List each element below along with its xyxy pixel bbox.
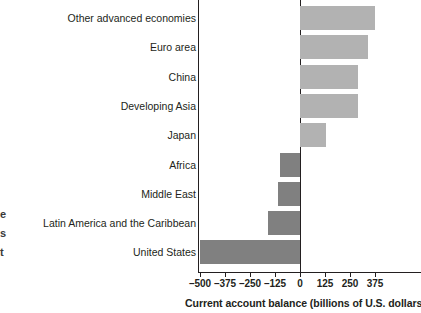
bar — [200, 240, 300, 264]
bar — [300, 65, 358, 89]
x-axis-line — [198, 272, 421, 273]
bar — [280, 153, 300, 177]
plot-area — [198, 0, 421, 272]
plot-left-frame-line — [198, 0, 199, 272]
bar — [300, 6, 375, 30]
category-label: Japan — [8, 129, 196, 141]
bar — [268, 211, 300, 235]
category-label: Africa — [8, 159, 196, 171]
category-label: Other advanced economies — [8, 12, 196, 24]
x-axis-tick — [225, 272, 226, 277]
x-axis-tick-label: 375 — [355, 278, 395, 289]
x-axis-tick — [275, 272, 276, 277]
horizontal-bar-chart: Other advanced economiesEuro areaChinaDe… — [0, 0, 421, 313]
bar — [300, 35, 368, 59]
x-axis-tick — [350, 272, 351, 277]
category-label: China — [8, 71, 196, 83]
x-axis-tick — [375, 272, 376, 277]
bar — [300, 94, 358, 118]
bar — [300, 123, 326, 147]
category-label: United States — [8, 246, 196, 258]
category-label: Latin America and the Caribbean — [8, 217, 196, 229]
x-axis-tick — [300, 272, 301, 277]
x-axis-tick — [200, 272, 201, 277]
category-label: Developing Asia — [8, 100, 196, 112]
category-label: Middle East — [8, 188, 196, 200]
x-axis-title: Current account balance (billions of U.S… — [185, 297, 421, 309]
category-label: Euro area — [8, 41, 196, 53]
category-axis-labels: Other advanced economiesEuro areaChinaDe… — [8, 0, 196, 272]
x-axis-tick — [325, 272, 326, 277]
x-axis-tick — [250, 272, 251, 277]
bar — [278, 182, 300, 206]
